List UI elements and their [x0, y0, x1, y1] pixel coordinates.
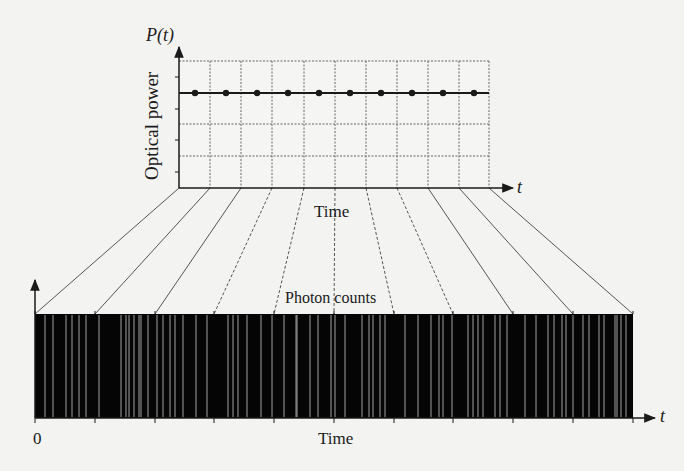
projection-line	[95, 188, 210, 314]
sample-point	[440, 90, 446, 96]
top-y-axis-title: Optical power	[142, 72, 161, 180]
projection-line	[155, 188, 241, 314]
photon-counting-diagram: P(t) Optical power t Time Photon counts …	[0, 0, 684, 471]
sample-point	[471, 90, 477, 96]
top-y-axis-label: P(t)	[146, 26, 174, 44]
projection-line	[428, 188, 513, 314]
origin-label: 0	[33, 430, 42, 447]
top-x-axis-title: Time	[314, 203, 349, 220]
projection-line	[35, 188, 179, 314]
optical-power-chart	[175, 47, 513, 188]
projection-line	[459, 188, 573, 314]
projection-line	[397, 188, 453, 314]
top-x-axis-label: t	[517, 178, 522, 196]
sample-point	[223, 90, 229, 96]
sample-point	[409, 90, 415, 96]
projection-line	[489, 188, 633, 314]
diagram-canvas	[0, 0, 684, 471]
sample-point	[316, 90, 322, 96]
photon-counts-block	[35, 314, 633, 418]
bottom-x-axis-label: t	[660, 407, 665, 425]
photon-counts-title: Photon counts	[285, 290, 376, 306]
sample-point	[192, 90, 198, 96]
bottom-x-axis-title: Time	[318, 430, 353, 447]
sample-point	[285, 90, 291, 96]
sample-point	[254, 90, 260, 96]
sample-point	[347, 90, 353, 96]
sample-point	[378, 90, 384, 96]
projection-line	[214, 188, 272, 314]
